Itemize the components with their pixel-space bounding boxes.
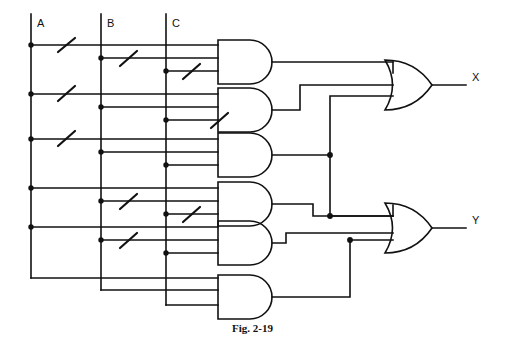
- input-label-b: B: [107, 18, 114, 29]
- and-gate-2: [218, 88, 272, 132]
- figure-canvas: A B C X Y Fig. 2-19: [0, 0, 505, 350]
- and-gate-4: [218, 182, 272, 226]
- and3-to-or-y: [330, 155, 393, 216]
- junction-dot: [28, 42, 33, 47]
- junction-dot: [98, 104, 103, 109]
- junction-dot: [163, 68, 168, 73]
- wire-layer: [31, 14, 466, 319]
- junction-dot-and6-route: [347, 237, 353, 243]
- junction-dot: [163, 211, 168, 216]
- input-label-c: C: [172, 18, 180, 29]
- and-gate-3: [218, 133, 272, 177]
- and3-to-or-x: [330, 96, 393, 155]
- output-label-x: X: [472, 72, 479, 83]
- and-gate-1: [218, 40, 272, 84]
- or-gate-y: [385, 203, 432, 253]
- and6-output-wire: [272, 240, 393, 297]
- junction-dot: [163, 162, 168, 167]
- and2-output-wire: [272, 85, 393, 110]
- logic-circuit-svg: [0, 0, 505, 350]
- junction-dot: [98, 198, 103, 203]
- junction-dot: [163, 117, 168, 122]
- junction-dot-or-y-input: [327, 213, 333, 219]
- and5-output-wire: [272, 233, 393, 243]
- input-label-a: A: [37, 18, 44, 29]
- figure-caption: Fig. 2-19: [0, 322, 505, 334]
- junction-dot: [28, 136, 33, 141]
- junction-dot: [163, 250, 168, 255]
- junction-dot: [28, 185, 33, 190]
- junction-dot-layer: [28, 42, 353, 255]
- junction-dot: [98, 55, 103, 60]
- output-label-y: Y: [472, 215, 479, 226]
- junction-dot: [98, 237, 103, 242]
- or-gate-x: [385, 60, 432, 110]
- junction-dot: [98, 149, 103, 154]
- inversion-mark-layer: [58, 38, 228, 248]
- junction-dot: [28, 224, 33, 229]
- junction-dot: [28, 91, 33, 96]
- and-gate-6: [218, 275, 272, 319]
- and-gate-5: [218, 221, 272, 265]
- and4-output-wire: [272, 204, 393, 216]
- junction-dot-and3-fanout: [327, 152, 333, 158]
